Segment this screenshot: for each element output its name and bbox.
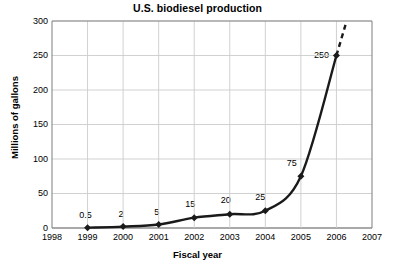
data-line — [88, 56, 337, 228]
data-point-marker — [333, 52, 340, 59]
data-point-marker — [191, 214, 198, 221]
projection-dashed-line — [336, 24, 345, 55]
data-point-marker — [226, 211, 233, 218]
data-point-marker — [120, 223, 127, 230]
data-point-marker — [155, 221, 162, 228]
plot-area — [0, 0, 395, 268]
data-point-marker — [84, 224, 91, 231]
chart-container: U.S. biodiesel production Millions of ga… — [0, 0, 395, 268]
